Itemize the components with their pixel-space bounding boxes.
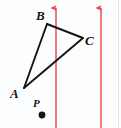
triangle-edge-bc — [47, 24, 83, 38]
figure-container: B C A P — [0, 0, 121, 128]
field-line-group — [56, 8, 101, 128]
vertex-label-b: B — [36, 9, 45, 22]
diagram-canvas — [0, 0, 121, 128]
right-edge-rule — [118, 0, 119, 128]
point-label-p: P — [33, 98, 40, 109]
triangle-abc — [24, 24, 83, 88]
vertex-label-c: C — [85, 34, 94, 47]
point-p-marker — [39, 112, 46, 119]
vertex-label-a: A — [10, 87, 19, 100]
